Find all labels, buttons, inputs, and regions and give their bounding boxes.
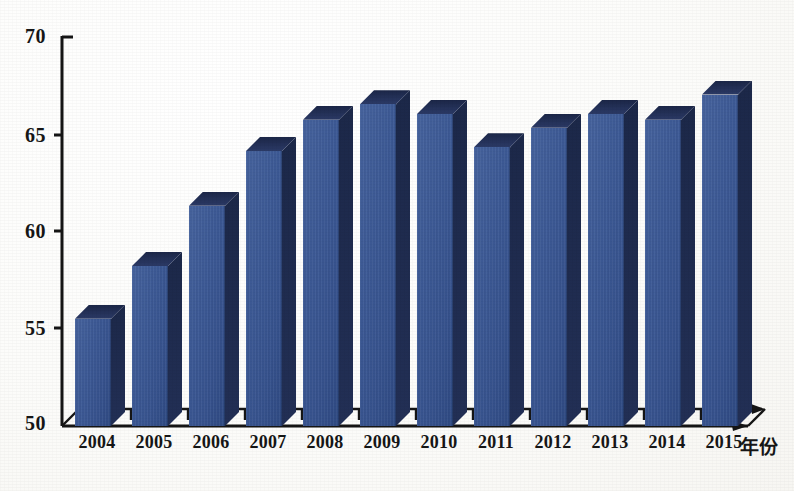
bar-front-face (303, 120, 339, 426)
bar-side-face (567, 114, 581, 426)
x-tick-label-2005: 2005 (123, 432, 185, 453)
x-tick-label-2006: 2006 (180, 432, 242, 453)
x-tick-label-2008: 2008 (294, 432, 356, 453)
y-tick-label-50: 50 (4, 412, 46, 435)
x-tick-label-2012: 2012 (522, 432, 584, 453)
bar-side-face (510, 133, 524, 426)
x-tick-label-2011: 2011 (465, 432, 527, 453)
bar-2014 (645, 106, 695, 426)
x-tick-label-2013: 2013 (579, 432, 641, 453)
x-tick-label-2014: 2014 (636, 432, 698, 453)
bar-side-face (111, 305, 125, 426)
bar-side-face (681, 106, 695, 426)
bar-front-face (132, 266, 168, 426)
bar-2011 (474, 133, 524, 426)
bar-side-face (738, 81, 752, 427)
bar-2007 (246, 137, 296, 426)
bar-front-face (588, 114, 624, 426)
bar-2013 (588, 100, 638, 426)
bar-front-face (702, 95, 738, 427)
bar-front-face (474, 147, 510, 426)
bar-2004 (75, 305, 125, 426)
bar-side-face (339, 106, 353, 426)
bar-2009 (360, 90, 410, 426)
x-tick-label-2007: 2007 (237, 432, 299, 453)
x-tick-label-2004: 2004 (66, 432, 128, 453)
x-axis-caption: 年份 (740, 432, 778, 459)
bar-chart: 70 65 60 55 50 2004200520062007200820092… (0, 0, 794, 491)
bar-2005 (132, 252, 182, 426)
bar-front-face (246, 151, 282, 426)
bar-2006 (189, 192, 239, 426)
y-tick-label-70: 70 (4, 25, 46, 48)
bar-front-face (360, 104, 396, 426)
bar-side-face (168, 252, 182, 426)
bar-side-face (225, 192, 239, 426)
bar-front-face (417, 114, 453, 426)
x-tick-label-2009: 2009 (351, 432, 413, 453)
bar-2008 (303, 106, 353, 426)
bar-front-face (531, 128, 567, 426)
bar-side-face (282, 137, 296, 426)
y-tick-label-60: 60 (4, 220, 46, 243)
bar-front-face (75, 319, 111, 426)
y-tick-label-55: 55 (4, 317, 46, 340)
bar-2012 (531, 114, 581, 426)
bar-side-face (396, 90, 410, 426)
x-tick-label-2010: 2010 (408, 432, 470, 453)
bar-2015 (702, 81, 752, 427)
bar-front-face (645, 120, 681, 426)
bar-side-face (624, 100, 638, 426)
bar-2010 (417, 100, 467, 426)
bar-side-face (453, 100, 467, 426)
y-tick-label-65: 65 (4, 124, 46, 147)
bar-front-face (189, 206, 225, 426)
